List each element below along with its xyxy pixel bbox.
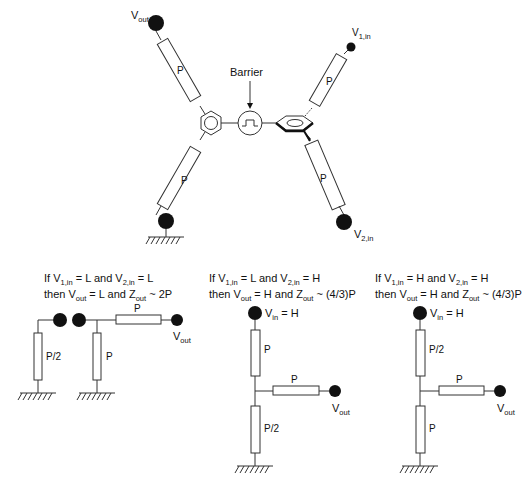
resistor <box>273 386 319 395</box>
resistor <box>34 333 42 380</box>
v1in-terminal-node <box>347 43 356 52</box>
resistor-label: P <box>326 76 333 87</box>
ground-icon <box>77 393 115 400</box>
condition-line-1: If V1,in = L and V2,in = H <box>209 272 320 287</box>
ground-icon <box>18 393 56 400</box>
ground-icon <box>235 466 273 473</box>
top-molecular-diagram: Vout P P Barrier <box>131 9 373 244</box>
input-node <box>413 306 427 320</box>
equivalent-circuit-2: If V1,in = L and V2,in = H then Vout = H… <box>209 272 356 473</box>
v1in-label: V1,in <box>352 27 371 41</box>
output-node <box>329 385 341 397</box>
molecular-circuit-diagram: Vout P P Barrier <box>0 0 532 492</box>
resistor <box>416 406 425 453</box>
resistor-label: P <box>134 303 141 314</box>
output-label: Vout <box>173 330 192 345</box>
resistor-label: P <box>456 374 463 385</box>
barrier-label: Barrier <box>230 66 263 78</box>
resistor <box>93 333 101 380</box>
equivalent-circuit-1: If V1,in = L and V2,in = L then Vout = L… <box>18 272 192 400</box>
condition-line-2: then Vout = H and Zout ~ (4/3)P <box>375 288 522 303</box>
resistor-label: P <box>177 65 184 76</box>
input-label: Vin = H <box>430 307 464 322</box>
ground-icon <box>146 237 184 244</box>
vout-label: Vout <box>131 9 150 24</box>
resistor <box>251 406 260 453</box>
input-node <box>53 313 67 327</box>
resistor <box>439 386 484 395</box>
equivalent-circuit-3: If V1,in = H and V2,in = H then Vout = H… <box>375 272 522 473</box>
left-benzene-ring <box>201 111 221 135</box>
vout-terminal-node <box>148 15 164 31</box>
output-node <box>494 385 506 397</box>
output-label: Vout <box>497 402 516 417</box>
output-label: Vout <box>332 402 351 417</box>
v2in-terminal-node <box>336 214 352 230</box>
resistor <box>416 330 425 376</box>
resistor <box>251 330 260 376</box>
resistor-label: P <box>106 351 113 362</box>
ground-icon <box>400 466 438 473</box>
resistor-label: P <box>264 344 271 355</box>
resistor-label: P <box>429 423 436 434</box>
input-node <box>248 306 262 320</box>
condition-line-2: then Vout = H and Zout ~ (4/3)P <box>209 288 356 303</box>
v2in-label: V2,in <box>354 228 373 243</box>
resistor-label: P <box>320 173 327 184</box>
resistor <box>116 315 161 324</box>
resistor-label: P <box>181 175 188 186</box>
ground-terminal-node <box>158 213 174 229</box>
resistor-label: P/2 <box>264 423 279 434</box>
resistor-label: P/2 <box>46 351 61 362</box>
output-node <box>171 314 183 326</box>
resistor-left-bottom <box>157 146 200 209</box>
resistor-label: P/2 <box>429 344 444 355</box>
condition-line-2: then Vout = L and Zout ~ 2P <box>44 288 172 303</box>
condition-line-1: If V1,in = H and V2,in = H <box>375 272 489 287</box>
resistor-label: P <box>291 374 298 385</box>
input-node <box>72 313 86 327</box>
condition-line-1: If V1,in = L and V2,in = L <box>44 272 153 287</box>
right-benzene-ring <box>276 116 313 131</box>
input-label: Vin = H <box>265 307 299 322</box>
barrier-icon <box>238 111 262 135</box>
